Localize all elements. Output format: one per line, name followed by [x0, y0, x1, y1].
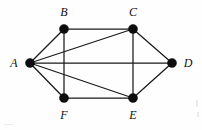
vertex-label-a: A — [10, 57, 17, 69]
graph-vertex-e — [128, 93, 137, 102]
graph-edge-c-d — [133, 29, 172, 63]
graph-canvas — [0, 0, 202, 130]
graph-vertex-b — [59, 24, 68, 33]
vertex-label-e: E — [129, 109, 136, 121]
vertex-label-f: F — [60, 109, 67, 121]
vertex-label-c: C — [129, 6, 137, 18]
graph-vertex-f — [59, 93, 68, 102]
edge-layer — [30, 29, 172, 98]
scan-speck — [196, 100, 198, 107]
graph-edge-d-e — [133, 63, 172, 98]
graph-vertex-a — [25, 58, 34, 67]
graph-edge-a-c — [30, 29, 133, 63]
scan-speck — [197, 112, 199, 117]
graph-edge-a-e — [30, 63, 133, 98]
scan-speck — [4, 124, 13, 125]
graph-vertex-c — [128, 24, 137, 33]
vertex-label-b: B — [60, 6, 67, 18]
vertex-label-d: D — [184, 57, 193, 69]
graph-figure: ABCDEF — [0, 0, 202, 130]
graph-vertex-d — [167, 58, 176, 67]
